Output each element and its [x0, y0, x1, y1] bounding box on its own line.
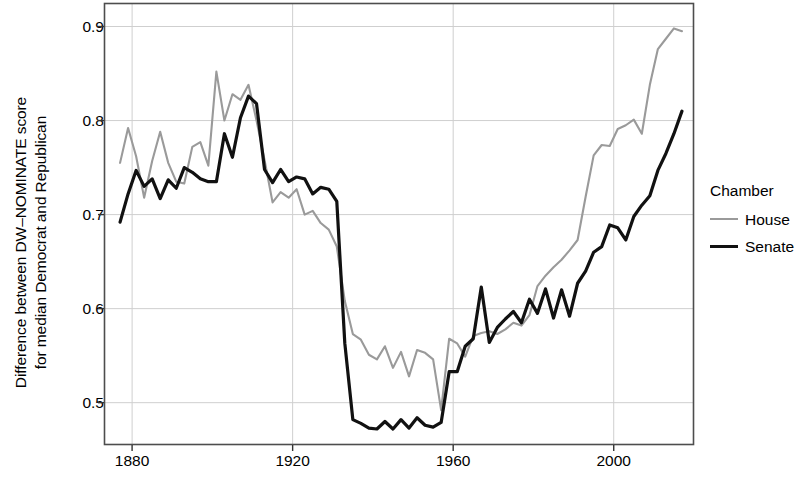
legend-title: Chamber: [710, 183, 794, 199]
legend-item-house[interactable]: House: [710, 212, 794, 228]
legend-label-senate: Senate: [745, 239, 794, 255]
legend: Chamber House Senate: [710, 183, 794, 267]
plot-background: [104, 3, 694, 445]
plot-panel: [0, 0, 811, 485]
legend-line-swatch-senate-icon: [710, 245, 738, 248]
legend-item-senate[interactable]: Senate: [710, 239, 794, 255]
legend-line-swatch-house-icon: [710, 218, 738, 220]
legend-label-house: House: [745, 212, 790, 228]
chart-figure: Difference between DW–NOMINATE score for…: [0, 0, 811, 485]
